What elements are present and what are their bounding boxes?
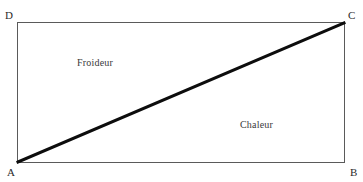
vertex-label-b: B [350,167,357,178]
vertex-label-d: D [5,10,13,21]
region-label-chaleur: Chaleur [240,119,273,131]
diagram-canvas: D C A B Froideur Chaleur [0,0,363,182]
vertex-label-a: A [7,167,15,178]
rectangle-abcd [17,22,345,163]
region-label-froideur: Froideur [77,57,113,69]
vertex-label-c: C [348,10,355,21]
